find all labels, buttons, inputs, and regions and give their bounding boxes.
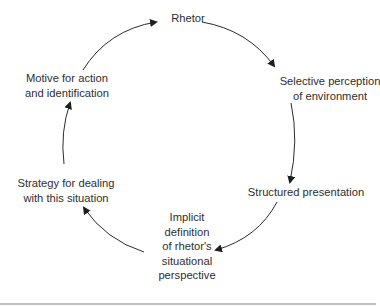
node-line: of environment [280, 89, 380, 104]
bottom-divider [0, 303, 376, 305]
arrow-rhetor-to-selective [202, 22, 274, 66]
node-strategy: Strategy for dealing with this situation [17, 176, 114, 205]
node-selective-perception: Selective perception of environment [280, 74, 380, 103]
node-line: situational [158, 254, 215, 269]
arrow-strategy-to-motive [63, 103, 70, 164]
node-implicit-definition: Implicit definition of rhetor's situatio… [158, 210, 215, 283]
arrow-implicit-to-strategy [84, 208, 144, 252]
node-structured-presentation: Structured presentation [248, 185, 364, 200]
arrow-motive-to-rhetor [83, 22, 156, 70]
node-line: Selective perception [280, 74, 380, 89]
node-line: Strategy for dealing [17, 176, 114, 191]
node-line: Implicit [158, 210, 215, 225]
node-line: of rhetor's [158, 239, 215, 254]
arrow-selective-to-structured [290, 103, 295, 182]
node-motive: Motive for action and identification [25, 71, 109, 100]
node-line: and identification [25, 86, 109, 101]
node-line: Rhetor [171, 11, 205, 26]
node-rhetor: Rhetor [171, 11, 205, 26]
node-line: with this situation [17, 191, 114, 206]
node-line: Motive for action [25, 71, 109, 86]
node-line: perspective [158, 268, 215, 283]
node-line: Structured presentation [248, 185, 364, 200]
arrow-structured-to-implicit [216, 202, 277, 250]
node-line: definition [158, 225, 215, 240]
